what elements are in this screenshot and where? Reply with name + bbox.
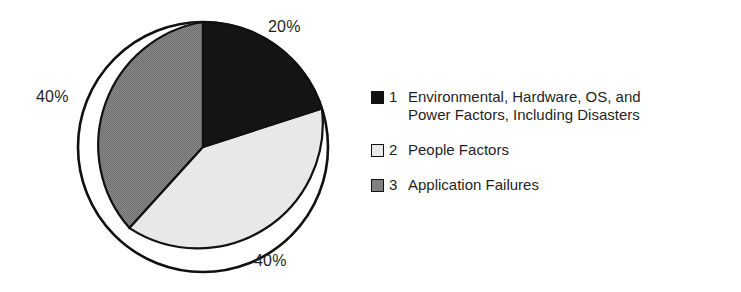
- slice-value-label-40-left: 40%: [36, 88, 69, 106]
- chart-legend: 1 Environmental, Hardware, OS, and Power…: [371, 88, 731, 194]
- legend-label-line2: Power Factors, Including Disasters: [408, 106, 731, 124]
- legend-index-2: 2: [389, 141, 408, 159]
- dark-swatch-icon: [371, 91, 384, 104]
- legend-index-3: 3: [389, 176, 408, 194]
- pie-chart-graphic: [0, 0, 370, 292]
- pie-chart-figure: 20% 40% 40% 1 Environmental, Hardware, O…: [0, 0, 741, 292]
- legend-index-1: 1: [389, 88, 408, 106]
- slice-value-label-40-bottom: 40%: [254, 252, 287, 270]
- pie-svg: [0, 0, 370, 292]
- gray-swatch-icon: [371, 179, 384, 192]
- legend-item-people-factors[interactable]: 2 People Factors: [371, 141, 731, 159]
- legend-label-environmental: Environmental, Hardware, OS, and Power F…: [408, 88, 731, 124]
- legend-label-application-failures: Application Failures: [408, 176, 731, 194]
- slice-value-label-20: 20%: [268, 18, 301, 36]
- legend-label-people-factors: People Factors: [408, 141, 731, 159]
- legend-item-environmental[interactable]: 1 Environmental, Hardware, OS, and Power…: [371, 88, 731, 124]
- light-swatch-icon: [371, 144, 384, 157]
- legend-label-line1: Environmental, Hardware, OS, and: [408, 88, 641, 105]
- legend-item-application-failures[interactable]: 3 Application Failures: [371, 176, 731, 194]
